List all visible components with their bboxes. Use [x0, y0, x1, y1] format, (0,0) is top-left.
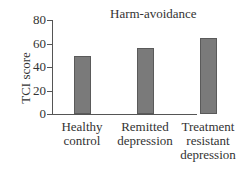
y-tick: [47, 91, 52, 92]
y-axis: [52, 20, 53, 115]
y-tick-label: 0: [28, 107, 46, 120]
y-tick-label: 40: [28, 60, 46, 73]
x-tick-label: Healthycontrol: [50, 120, 114, 148]
y-axis-label: TCI score: [18, 48, 34, 108]
y-tick: [47, 44, 52, 45]
y-tick-label: 60: [28, 37, 46, 50]
bar: [137, 48, 154, 114]
bar: [200, 38, 217, 114]
y-tick: [47, 20, 52, 21]
x-tick-label: Remitteddepression: [113, 120, 177, 148]
y-tick-label: 20: [28, 84, 46, 97]
chart-title: Harm-avoidance: [110, 6, 197, 22]
bar-chart: Harm-avoidance TCI score 020406080 Healt…: [0, 0, 248, 176]
x-axis: [52, 114, 197, 115]
y-tick-label: 80: [28, 13, 46, 26]
x-tick-label: Treatmentresistantdepression: [176, 120, 240, 162]
y-tick: [47, 67, 52, 68]
bar: [74, 56, 91, 114]
y-tick: [47, 114, 52, 115]
